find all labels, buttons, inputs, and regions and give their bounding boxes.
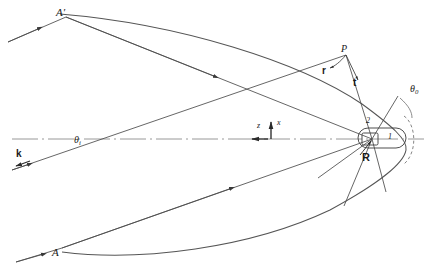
label-A-prime: A′ [56, 7, 65, 18]
vector-r-at-P [330, 55, 346, 68]
label-P: P [341, 44, 347, 54]
incident-ray-upper [8, 17, 66, 42]
label-A: A [52, 247, 59, 258]
theta-0-sub: 0 [415, 88, 418, 95]
wavevector-k-arrow [16, 161, 30, 166]
figure-canvas: A′ A P r t R θi θ0 z x k 1 2 [0, 0, 430, 272]
focal-region-outline [358, 128, 406, 148]
reflected-ray-from-A [62, 139, 372, 248]
label-wavevector-k: k [16, 149, 22, 159]
label-axis-x: x [277, 119, 281, 127]
label-theta-0: θ0 [410, 84, 419, 96]
reflected-ray-from-P [346, 55, 372, 139]
vector-t-at-P [346, 55, 358, 80]
label-vector-t: t [353, 78, 356, 88]
theta0-angle-arc [400, 98, 412, 118]
label-vector-R: R [362, 152, 370, 163]
label-vector-r: r [322, 66, 326, 76]
parabola-reflector [60, 14, 406, 255]
reflected-ray-from-A-prime [66, 17, 372, 139]
theta-i-sub: i [79, 139, 81, 146]
label-axis-z: z [257, 122, 260, 130]
diagram-svg [0, 0, 430, 272]
label-region-1: 1 [388, 133, 392, 141]
label-theta-i: θi [74, 135, 81, 147]
incident-ray-middle [10, 55, 372, 172]
thetai-angle-arc [92, 127, 104, 139]
label-region-2: 2 [366, 117, 370, 125]
